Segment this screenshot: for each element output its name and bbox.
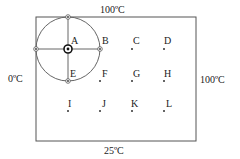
top-edge-temp: 100ºC [100,4,125,15]
label-g: G [133,68,140,79]
dot-g [131,80,133,82]
label-h: H [164,68,171,79]
label-f: F [102,68,108,79]
dot-d [163,48,165,50]
dot-l [163,110,165,112]
stencil-node-left [34,47,39,52]
stencil-node-b [98,47,103,52]
stencil-node-top [66,15,71,20]
stencil-node-e [66,79,71,84]
bottom-edge-temp: 25ºC [104,145,124,156]
label-a: A [71,35,79,46]
label-b: B [102,35,109,46]
dot-f [99,80,101,82]
label-l: L [166,98,172,109]
label-d: D [164,35,171,46]
dot-i [67,110,69,112]
heat-plate-diagram: A B C D E F G H I J K L 100ºC 0ºC 100ºC … [0,0,240,159]
plate-boundary [36,17,196,141]
right-edge-temp: 100ºC [200,74,225,85]
dot-c [131,48,133,50]
label-e: E [70,68,76,79]
label-k: K [131,98,139,109]
label-j: J [102,98,106,109]
dot-k [131,110,133,112]
label-i: I [68,98,71,109]
label-c: C [133,35,140,46]
dot-j [99,110,101,112]
left-edge-temp: 0ºC [8,73,23,84]
center-node-a [64,45,72,53]
dot-h [163,80,165,82]
